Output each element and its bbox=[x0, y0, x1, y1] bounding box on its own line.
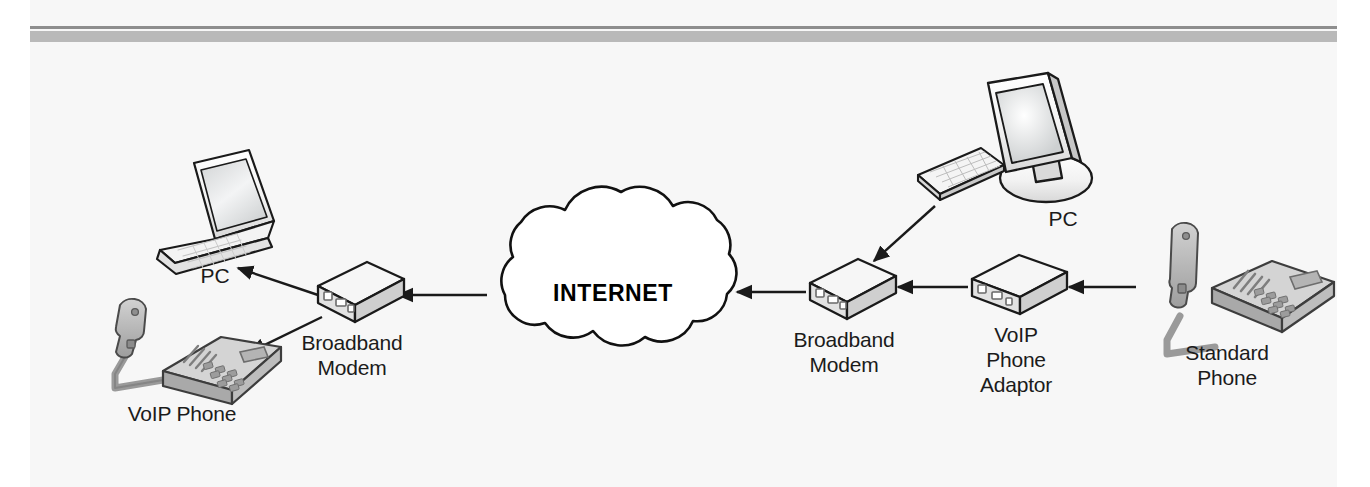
laptop-icon bbox=[157, 150, 274, 274]
node-label-pc-left: PC bbox=[201, 263, 230, 288]
internet-cloud bbox=[501, 187, 736, 346]
link-modemleft-to-pcleft bbox=[238, 268, 318, 295]
link-pcright-to-modemright bbox=[874, 206, 935, 261]
standard-phone-icon bbox=[1167, 223, 1334, 354]
diagram-page: INTERNET PC VoIP Phone Broadband Modem B… bbox=[0, 0, 1370, 487]
internet-cloud-label: INTERNET bbox=[553, 280, 673, 307]
node-label-broadband-modem-right: Broadband Modem bbox=[794, 327, 895, 377]
node-label-voip-phone-left: VoIP Phone bbox=[128, 401, 237, 426]
node-label-pc-right: PC bbox=[1049, 206, 1078, 231]
modem-icon bbox=[318, 262, 404, 322]
modem-icon bbox=[810, 259, 896, 319]
node-label-broadband-modem-left: Broadband Modem bbox=[302, 330, 403, 380]
node-label-standard-phone: Standard Phone bbox=[1185, 340, 1269, 390]
voip-adaptor-icon bbox=[972, 255, 1067, 314]
node-label-voip-adaptor: VoIP Phone Adaptor bbox=[980, 322, 1052, 397]
desktop-computer-icon bbox=[918, 73, 1092, 202]
voip-phone-icon bbox=[115, 299, 281, 404]
